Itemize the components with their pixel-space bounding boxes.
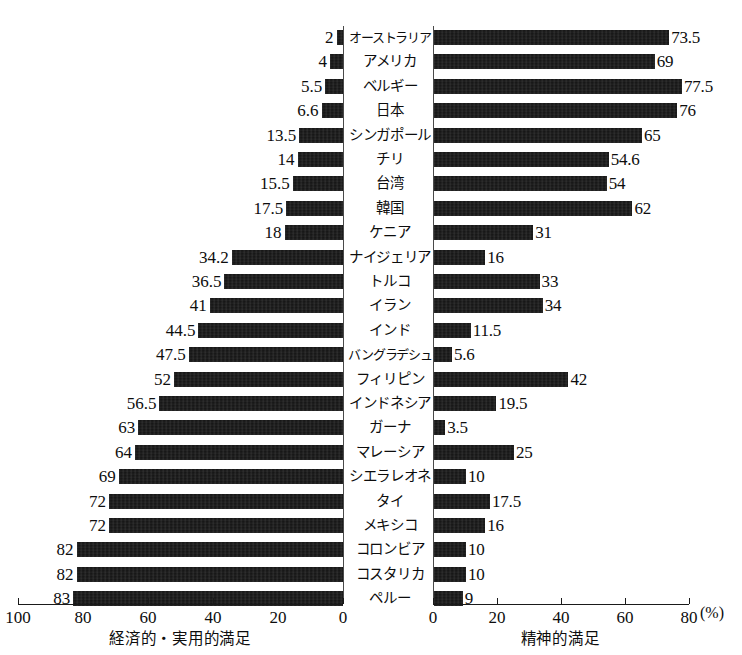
chart-row: 36.5トルコ33: [0, 272, 742, 296]
right-value-label: 16: [487, 517, 504, 534]
category-label: ペルー: [347, 589, 433, 608]
category-label: シエラレオネ: [347, 467, 433, 486]
chart-row: 2オーストラリア73.5: [0, 28, 742, 52]
chart-row: 6.6日本76: [0, 101, 742, 125]
category-label: 台湾: [347, 174, 433, 193]
left-value-label: 2: [325, 29, 334, 46]
left-bar: [330, 54, 343, 69]
unit-label: (%): [700, 604, 724, 621]
left-axis-0-tick-label: 0: [313, 609, 373, 626]
category-label: インド: [347, 321, 433, 340]
right-bar: [434, 250, 485, 265]
right-value-label: 69: [657, 53, 674, 70]
left-bar: [286, 201, 343, 216]
left-bar: [285, 225, 344, 240]
right-bar: [434, 494, 490, 509]
left-axis-20-tick: [278, 598, 279, 604]
plot-area: 2オーストラリア73.54アメリカ695.5ベルギー77.56.6日本7613.…: [0, 24, 742, 594]
left-axis-0-tick: [343, 598, 344, 604]
category-label: 韓国: [347, 199, 433, 218]
chart-row: 17.5韓国62: [0, 199, 742, 223]
right-axis-line: [433, 604, 689, 605]
chart-row: 82コロンビア10: [0, 540, 742, 564]
right-value-label: 76: [679, 102, 696, 119]
category-label: ガーナ: [347, 418, 433, 437]
left-axis-60-tick-label: 60: [118, 609, 178, 626]
left-value-label: 36.5: [192, 273, 222, 290]
left-bar: [77, 567, 344, 582]
right-axis-0-tick-label: 0: [403, 609, 463, 626]
category-label: チリ: [347, 150, 433, 169]
right-axis-caption: 精神的満足: [480, 630, 640, 648]
right-value-label: 10: [468, 468, 485, 485]
right-bar: [434, 152, 609, 167]
left-bar: [210, 298, 343, 313]
chart-row: 18ケニア31: [0, 223, 742, 247]
right-bar: [434, 445, 514, 460]
left-bar: [299, 128, 343, 143]
right-bar: [434, 225, 533, 240]
left-bar: [138, 420, 343, 435]
chart-row: 69シエラレオネ10: [0, 467, 742, 491]
chart-row: 72タイ17.5: [0, 492, 742, 516]
right-value-label: 73.5: [671, 29, 700, 46]
right-value-label: 16: [487, 249, 504, 266]
right-value-label: 3.5: [447, 419, 468, 436]
left-bar: [174, 372, 343, 387]
right-value-label: 54.6: [611, 151, 640, 168]
left-value-label: 18: [265, 224, 282, 241]
right-panel-baseline: [433, 26, 434, 604]
left-bar: [232, 250, 343, 265]
left-value-label: 47.5: [156, 346, 186, 363]
right-value-label: 25: [516, 444, 533, 461]
right-bar: [434, 542, 466, 557]
right-bar: [434, 567, 466, 582]
right-bar: [434, 103, 677, 118]
right-value-label: 17.5: [492, 493, 521, 510]
right-axis-20-tick: [497, 598, 498, 604]
right-value-label: 31: [535, 224, 552, 241]
category-label: トルコ: [347, 272, 433, 291]
right-axis-80-tick: [689, 598, 690, 604]
left-bar: [198, 323, 343, 338]
right-bar: [434, 347, 452, 362]
left-axis-100-tick-label: 100: [0, 609, 48, 626]
category-label: ナイジェリア: [347, 248, 433, 267]
chart-row: 56.5インドネシア19.5: [0, 394, 742, 418]
left-value-label: 56.5: [127, 395, 157, 412]
right-bar: [434, 176, 607, 191]
right-bar: [434, 30, 669, 45]
left-bar: [109, 494, 343, 509]
left-bar: [189, 347, 343, 362]
right-axis-60-tick: [625, 598, 626, 604]
chart-row: 64マレーシア25: [0, 443, 742, 467]
chart-row: 13.5シンガポール65: [0, 126, 742, 150]
left-value-label: 13.5: [266, 127, 296, 144]
right-bar: [434, 298, 543, 313]
chart-row: 52フィリピン42: [0, 370, 742, 394]
left-axis-caption: 経済的・実用的満足: [70, 630, 290, 648]
right-value-label: 77.5: [684, 78, 713, 95]
category-label: ケニア: [347, 223, 433, 242]
right-value-label: 62: [634, 200, 651, 217]
right-axis-40-tick-label: 40: [531, 609, 591, 626]
left-bar: [135, 445, 343, 460]
left-value-label: 41: [190, 297, 207, 314]
right-value-label: 42: [570, 371, 587, 388]
left-value-label: 72: [89, 493, 106, 510]
right-bar: [434, 54, 655, 69]
left-axis-40-tick-label: 40: [183, 609, 243, 626]
bidirectional-bar-chart: 2オーストラリア73.54アメリカ695.5ベルギー77.56.6日本7613.…: [0, 0, 742, 655]
left-value-label: 63: [118, 419, 135, 436]
chart-row: 44.5インド11.5: [0, 321, 742, 345]
chart-row: 5.5ベルギー77.5: [0, 77, 742, 101]
category-label: インドネシア: [347, 394, 433, 413]
left-value-label: 64: [115, 444, 132, 461]
category-label: ベルギー: [347, 77, 433, 96]
right-bar: [434, 201, 632, 216]
left-bar: [224, 274, 343, 289]
left-bar: [298, 152, 344, 167]
chart-row: 72メキシコ16: [0, 516, 742, 540]
left-value-label: 44.5: [166, 322, 196, 339]
left-bar: [109, 518, 343, 533]
